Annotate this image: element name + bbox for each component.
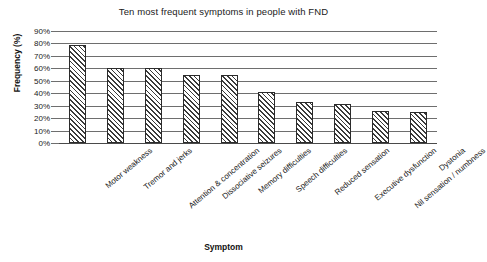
x-axis-title: Symptom bbox=[0, 242, 447, 252]
y-axis-tick-label: 50% bbox=[34, 76, 50, 85]
chart-title: Ten most frequent symptoms in people wit… bbox=[0, 6, 447, 17]
y-axis-tick-label: 0% bbox=[38, 139, 50, 148]
y-axis-tick-label: 10% bbox=[34, 126, 50, 135]
tick-mark bbox=[51, 131, 59, 132]
x-axis-tick-labels: Motor weaknessTremor and jerksAttention … bbox=[59, 146, 437, 226]
bar bbox=[107, 68, 124, 143]
y-axis-tick-label: 80% bbox=[34, 39, 50, 48]
bar-series bbox=[59, 31, 437, 143]
gridline bbox=[59, 143, 437, 144]
tick-mark bbox=[51, 56, 59, 57]
tick-mark bbox=[51, 93, 59, 94]
tick-mark bbox=[51, 68, 59, 69]
y-axis-tick-labels: 90%80%70%60%50%40%30%20%10%0% bbox=[14, 31, 50, 143]
bar bbox=[183, 75, 200, 143]
bar bbox=[410, 112, 427, 143]
bar bbox=[372, 111, 389, 143]
bar bbox=[334, 104, 351, 143]
tick-mark bbox=[51, 43, 59, 44]
y-axis-tick-label: 90% bbox=[34, 27, 50, 36]
plot-area bbox=[59, 31, 437, 143]
bar bbox=[296, 102, 313, 143]
y-axis-tick-label: 20% bbox=[34, 114, 50, 123]
bar bbox=[258, 92, 275, 143]
y-axis-tick-label: 70% bbox=[34, 51, 50, 60]
bar bbox=[221, 75, 238, 143]
y-axis-tick-label: 30% bbox=[34, 101, 50, 110]
bar bbox=[145, 68, 162, 143]
bar bbox=[69, 45, 86, 143]
y-axis-tick-label: 60% bbox=[34, 64, 50, 73]
tick-mark bbox=[51, 143, 59, 144]
tick-mark bbox=[51, 118, 59, 119]
y-axis-tick-marks bbox=[51, 31, 59, 143]
tick-mark bbox=[51, 81, 59, 82]
y-axis-tick-label: 40% bbox=[34, 89, 50, 98]
tick-mark bbox=[51, 106, 59, 107]
tick-mark bbox=[51, 31, 59, 32]
